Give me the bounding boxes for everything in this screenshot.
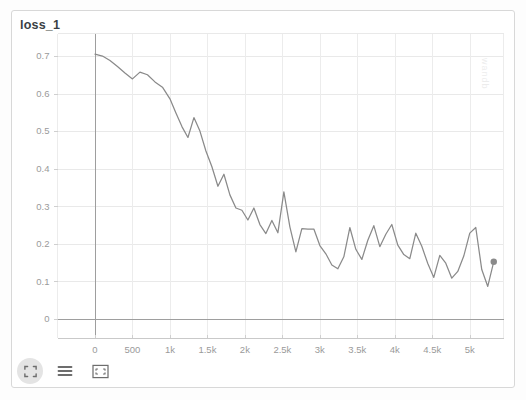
chart-card: [11, 10, 515, 388]
fit-frame-icon-glyph: [92, 364, 109, 379]
fit-frame-icon[interactable]: [87, 358, 113, 384]
chart-toolbar: [17, 358, 113, 384]
list-icon[interactable]: [52, 358, 78, 384]
chart-panel-root: loss_1 wandb 00.10.20.30.40.50.60.7 0500…: [0, 0, 526, 400]
expand-icon[interactable]: [17, 358, 43, 384]
watermark: wandb: [474, 58, 490, 110]
page-title: loss_1: [20, 18, 60, 32]
expand-icon-glyph: [23, 364, 38, 379]
list-icon-glyph: [57, 364, 73, 378]
